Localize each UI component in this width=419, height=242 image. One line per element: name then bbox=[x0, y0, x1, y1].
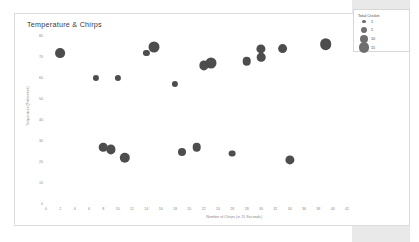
legend-item-label: 1 bbox=[371, 20, 373, 24]
data-point[interactable] bbox=[115, 75, 121, 81]
data-point[interactable] bbox=[229, 150, 236, 157]
data-point[interactable] bbox=[205, 58, 216, 69]
x-tick-label: 20 bbox=[187, 207, 191, 211]
x-tick-label: 30 bbox=[259, 207, 263, 211]
data-point[interactable] bbox=[192, 143, 201, 152]
x-tick-label: 4 bbox=[74, 207, 76, 211]
x-tick-label: 26 bbox=[230, 207, 234, 211]
data-point[interactable] bbox=[257, 53, 266, 62]
x-tick-label: 14 bbox=[144, 207, 148, 211]
data-point[interactable] bbox=[178, 148, 186, 156]
chart-card: Temperature & Chirps Temperature (Fahren… bbox=[14, 13, 410, 226]
x-axis-title: Number of Chirps (in 15 Seconds) bbox=[15, 215, 409, 219]
y-tick-label: 10 bbox=[39, 181, 43, 185]
y-tick-label: 70 bbox=[39, 55, 43, 59]
x-tick-label: 22 bbox=[202, 207, 206, 211]
x-tick-label: 10 bbox=[116, 207, 120, 211]
legend-bubble-icon bbox=[358, 20, 370, 23]
legend-title: Total Cricket bbox=[358, 13, 379, 18]
legend-item-label: 5 bbox=[371, 28, 373, 32]
data-point[interactable] bbox=[285, 155, 294, 164]
y-tick-label: 80 bbox=[39, 34, 43, 38]
legend-item[interactable]: 15 bbox=[358, 42, 375, 53]
y-tick-label: 60 bbox=[39, 76, 43, 80]
x-tick-label: 12 bbox=[130, 207, 134, 211]
legend-item-label: 10 bbox=[371, 37, 375, 41]
legend-box: Total Cricket 151015 bbox=[353, 9, 410, 52]
data-point[interactable] bbox=[120, 153, 130, 163]
data-point[interactable] bbox=[148, 41, 159, 52]
y-axis-title: Temperature (Fahrenheit) bbox=[26, 86, 30, 126]
x-tick-label: 34 bbox=[288, 207, 292, 211]
y-tick-label: 20 bbox=[39, 160, 43, 164]
x-tick-label: 42 bbox=[345, 207, 349, 211]
data-point[interactable] bbox=[55, 48, 65, 58]
y-tick-label: 30 bbox=[39, 139, 43, 143]
data-point[interactable] bbox=[172, 81, 178, 87]
plot-area: 01020304050607080 0246810121416182022242… bbox=[46, 36, 347, 204]
y-tick-label: 50 bbox=[39, 97, 43, 101]
data-point[interactable] bbox=[242, 57, 251, 66]
x-tick-label: 36 bbox=[302, 207, 306, 211]
x-tick-label: 40 bbox=[331, 207, 335, 211]
x-tick-label: 0 bbox=[45, 207, 47, 211]
x-tick-label: 24 bbox=[216, 207, 220, 211]
screenshot-root: Temperature & Chirps Temperature (Fahren… bbox=[0, 0, 419, 242]
data-point[interactable] bbox=[320, 39, 332, 51]
x-tick-label: 6 bbox=[88, 207, 90, 211]
data-point[interactable] bbox=[93, 75, 99, 81]
data-point[interactable] bbox=[143, 50, 149, 56]
x-tick-label: 32 bbox=[273, 207, 277, 211]
legend-item-label: 15 bbox=[371, 46, 375, 50]
data-point[interactable] bbox=[106, 145, 115, 154]
y-tick-label: 40 bbox=[39, 118, 43, 122]
legend-item[interactable]: 5 bbox=[358, 27, 373, 33]
y-tick-label: 0 bbox=[41, 202, 43, 206]
legend-bubble-icon bbox=[358, 27, 370, 33]
x-tick-label: 28 bbox=[245, 207, 249, 211]
x-tick-label: 38 bbox=[316, 207, 320, 211]
x-tick-label: 18 bbox=[173, 207, 177, 211]
x-tick-label: 2 bbox=[59, 207, 61, 211]
x-axis-title-text: Number of Chirps (in 15 Seconds) bbox=[162, 215, 262, 219]
legend-bubble-icon bbox=[358, 42, 370, 53]
data-point[interactable] bbox=[278, 44, 288, 54]
x-tick-label: 16 bbox=[159, 207, 163, 211]
data-points-layer bbox=[46, 36, 347, 204]
x-tick-label: 8 bbox=[102, 207, 104, 211]
chart-title: Temperature & Chirps bbox=[27, 20, 102, 29]
legend-item[interactable]: 1 bbox=[358, 20, 373, 24]
